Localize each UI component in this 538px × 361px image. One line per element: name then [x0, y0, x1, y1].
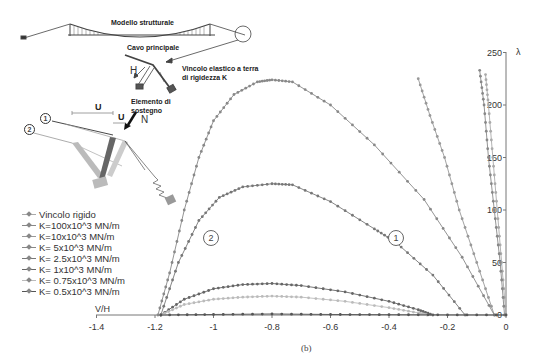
legend-swatch-icon	[22, 214, 36, 215]
elastic-support-label-2: di rigidezza K	[182, 74, 227, 81]
series-4	[159, 182, 466, 316]
x-tick-label: -0.8	[264, 322, 280, 332]
x-tick-label: -0.6	[323, 322, 339, 332]
chart-canvas: 050100150200250 -1.4-1.2-1-0.8-0.6-0.4-0…	[0, 0, 538, 361]
y-axis-label: λ	[516, 47, 521, 57]
legend-label: K= 1x10^3 MN/m	[39, 264, 112, 275]
legend-label: K= 0.75x10^3 MN/m	[39, 275, 125, 286]
legend-swatch-icon	[22, 269, 36, 270]
x-tick-label: -0.4	[381, 322, 397, 332]
x-ticks: -1.4-1.2-1-0.8-0.6-0.4-0.20	[89, 315, 509, 332]
series-5	[159, 282, 434, 316]
legend-label: K= 0.5x10^3 MN/m	[39, 286, 120, 297]
legend-item: K= 5x10^3 MN/m	[22, 242, 125, 253]
series-7	[159, 313, 507, 317]
displacement-u-small: U	[118, 112, 125, 122]
legend-swatch-icon	[22, 236, 36, 237]
x-axis-label: V/H	[95, 304, 110, 314]
legend-label: K=10x10^3 MN/m	[39, 231, 114, 242]
structural-model-label: Modello strutturale	[111, 19, 174, 26]
config-2-marker: 2	[24, 124, 35, 135]
main-cable-label: Cavo principale	[127, 44, 179, 51]
legend-swatch-icon	[22, 291, 36, 292]
legend-label: K= 5x10^3 MN/m	[39, 242, 112, 253]
figure-caption: (b)	[301, 343, 312, 353]
legend-swatch-icon	[22, 225, 36, 226]
legend-label: K= 2.5x10^3 MN/m	[39, 253, 120, 264]
support-element-label-2: sostegno	[131, 107, 162, 114]
legend-swatch-icon	[22, 280, 36, 281]
x-tick-label: -1.4	[89, 322, 105, 332]
x-tick-label: 0	[503, 322, 508, 332]
force-n-label: N	[141, 114, 148, 125]
support-element-label: Elemento di	[131, 98, 171, 105]
series-3	[157, 78, 496, 316]
x-tick-label: -1.2	[147, 322, 163, 332]
legend-item: K=100x10^3 MN/m	[22, 220, 125, 231]
x-tick-label: -1	[209, 322, 217, 332]
legend-item: Vincolo rigido	[22, 209, 125, 220]
y-tick-label: 250	[487, 48, 502, 58]
x-tick-label: -0.2	[440, 322, 456, 332]
legend-item: K= 1x10^3 MN/m	[22, 264, 125, 275]
bridge-model-diagram	[21, 24, 251, 93]
legend-label: Vincolo rigido	[39, 209, 96, 220]
series-6	[159, 295, 428, 317]
legend-swatch-icon	[22, 247, 36, 248]
data-series	[157, 69, 508, 316]
legend-item: K= 0.75x10^3 MN/m	[22, 275, 125, 286]
legend-swatch-icon	[22, 258, 36, 259]
legend: Vincolo rigidoK=100x10^3 MN/mK=10x10^3 M…	[22, 209, 125, 297]
curve-marker-1: 1	[388, 230, 404, 246]
deformation-diagram	[30, 111, 176, 205]
curve-marker-2: 2	[203, 230, 219, 246]
legend-label: K=100x10^3 MN/m	[39, 220, 120, 231]
config-1-marker: 1	[40, 113, 51, 124]
displacement-u-large: U	[95, 102, 102, 112]
elastic-support-label: Vincolo elastico a terra	[182, 65, 259, 72]
force-h-label: H	[130, 65, 137, 76]
legend-item: K= 0.5x10^3 MN/m	[22, 286, 125, 297]
legend-item: K= 2.5x10^3 MN/m	[22, 253, 125, 264]
legend-item: K=10x10^3 MN/m	[22, 231, 125, 242]
